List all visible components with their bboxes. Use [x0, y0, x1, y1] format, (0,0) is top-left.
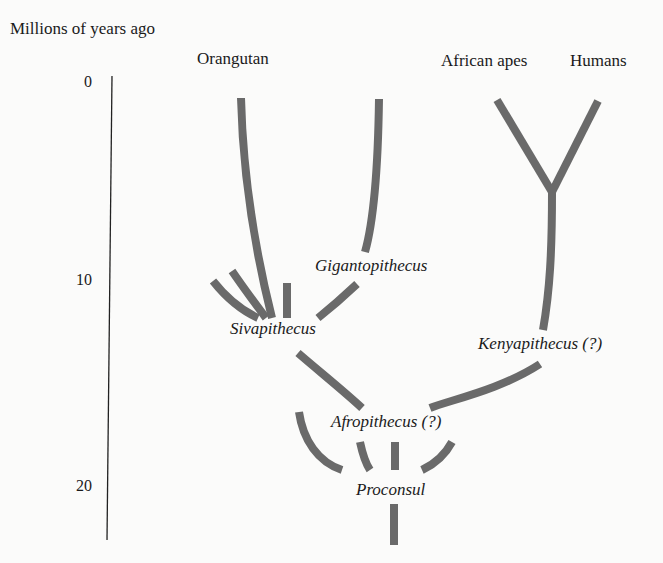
time-axis	[107, 76, 112, 540]
branch-gigantopithecus-lower	[318, 284, 357, 318]
branch-proconsul-outer-left	[299, 412, 342, 470]
branch-gigantopithecus-upper	[365, 99, 379, 252]
branch-sivapithecus-to-afropithecus	[298, 353, 362, 408]
phylogenetic-tree	[0, 0, 663, 563]
branch-proconsul-inner-left	[360, 442, 370, 470]
branch-proconsul-right	[422, 442, 452, 470]
branch-african-apes	[497, 100, 552, 192]
branch-humans	[552, 101, 598, 192]
branch-kenyapithecus-to-afropithecus	[430, 364, 540, 408]
branch-human-ape-stem	[543, 192, 552, 330]
